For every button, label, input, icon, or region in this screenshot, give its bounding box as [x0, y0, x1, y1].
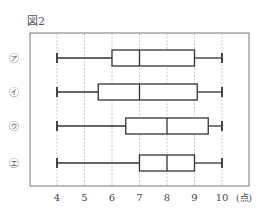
iqr-box [98, 84, 197, 100]
box-2 [57, 84, 222, 100]
x-tick-label-10: 10 [216, 192, 229, 203]
box-4 [57, 155, 222, 171]
boxplot-chart: ㋐㋑㋒㋓ 45678910 (点) [0, 0, 270, 220]
category-label-4: ㋓ [9, 158, 19, 169]
x-tick-label-4: 4 [54, 192, 60, 203]
x-tick-label-8: 8 [164, 192, 170, 203]
x-tick-labels: 45678910 [54, 192, 229, 203]
x-tick-label-5: 5 [81, 192, 87, 203]
category-label-2: ㋑ [9, 87, 19, 98]
x-axis-unit-label: (点) [236, 193, 252, 203]
x-tick-label-6: 6 [109, 192, 115, 203]
x-tick-label-9: 9 [191, 192, 197, 203]
iqr-box [112, 50, 195, 66]
category-labels: ㋐㋑㋒㋓ [9, 53, 19, 169]
box-3 [57, 118, 222, 134]
x-tick-label-7: 7 [136, 192, 142, 203]
category-label-3: ㋒ [9, 121, 19, 132]
box-1 [57, 50, 222, 66]
category-label-1: ㋐ [9, 53, 19, 64]
